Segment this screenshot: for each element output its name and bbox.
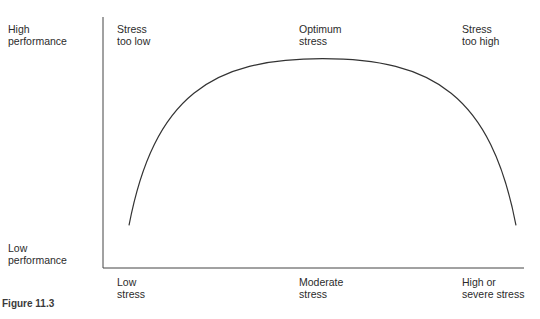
diagram-canvas (0, 0, 540, 319)
x-axis-high-label: High or severe stress (462, 276, 524, 300)
zone-label-too-low: Stress too low (117, 23, 150, 47)
zone-label-optimum: Optimum stress (299, 23, 342, 47)
y-axis-low-label: Low performance (8, 242, 67, 266)
performance-curve (129, 59, 516, 226)
x-axis-moderate-label: Moderate stress (299, 276, 343, 300)
y-axis-high-label: High performance (8, 23, 67, 47)
zone-label-too-high: Stress too high (462, 23, 499, 47)
figure-caption: Figure 11.3 (2, 298, 54, 309)
x-axis-low-label: Low stress (117, 276, 145, 300)
